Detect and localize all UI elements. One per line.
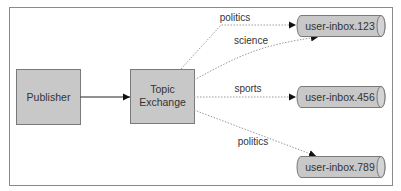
topic-exchange-node: Topic Exchange — [131, 70, 195, 124]
topic-exchange-diagram: Publisher Topic Exchange politics scienc… — [0, 0, 401, 191]
exchange-label-line2: Exchange — [139, 96, 186, 108]
edge-label-politics-2: politics — [238, 136, 269, 147]
queue-user-inbox-123: user-inbox.123 — [297, 16, 385, 37]
publisher-label: Publisher — [27, 91, 71, 103]
queue-user-inbox-456: user-inbox.456 — [297, 87, 385, 108]
edge-label-politics-1: politics — [220, 12, 251, 23]
queue-label-789: user-inbox.789 — [305, 161, 375, 173]
queue-user-inbox-789: user-inbox.789 — [297, 157, 385, 178]
queue-label-123: user-inbox.123 — [305, 20, 375, 32]
edge-label-science: science — [234, 35, 268, 46]
edge-label-sports: sports — [234, 83, 261, 94]
queue-label-456: user-inbox.456 — [305, 91, 375, 103]
exchange-label-line1: Topic — [150, 83, 175, 95]
publisher-node: Publisher — [17, 70, 81, 125]
